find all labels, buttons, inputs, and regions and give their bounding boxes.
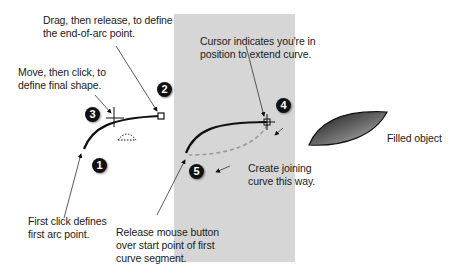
extend-cursor-icon — [259, 114, 275, 130]
label-cursor-indicates: Cursor indicates you're inposition to ex… — [200, 35, 316, 61]
label-drag-release: Drag, then release, to definethe end-of-… — [43, 14, 173, 40]
joining-curve-dashed — [189, 125, 267, 155]
label-first-click: First click definesfirst arc point. — [28, 215, 107, 241]
second-arc — [186, 114, 275, 155]
label-filled-object: Filled object — [387, 132, 442, 145]
pointer-arrow — [64, 154, 81, 218]
step-badge-1: 1 — [92, 158, 107, 173]
end-point-handle-icon — [158, 113, 164, 119]
label-create-joining: Create joiningcurve this way. — [248, 162, 315, 188]
label-move-click: Move, then click, todefine final shape. — [18, 66, 106, 92]
direction-arrow — [275, 128, 283, 135]
direction-arrow — [216, 166, 230, 172]
step-badge-4: 4 — [276, 98, 291, 113]
step-badge-2: 2 — [157, 82, 172, 97]
label-release-mouse: Release mouse buttonover start point of … — [116, 226, 219, 265]
pointer-arrow — [116, 46, 157, 111]
pointer-arrow — [157, 160, 185, 215]
filled-object-shape — [309, 112, 387, 146]
step-badge-3: 3 — [85, 107, 100, 122]
dotted-arc-cursor-icon — [118, 134, 136, 140]
step-badge-5: 5 — [189, 164, 204, 179]
